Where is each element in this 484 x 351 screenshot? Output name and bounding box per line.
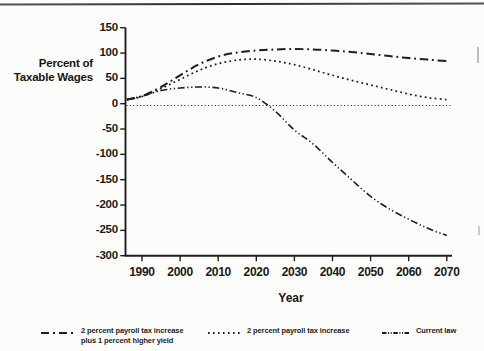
- y-axis-title-line1: Percent of: [8, 57, 93, 71]
- y-tick-label: -150: [62, 173, 118, 185]
- legend-label: Current law: [416, 326, 456, 336]
- dashdot-line-icon: [40, 328, 75, 338]
- scanned-chart-page: Percent of Taxable Wages 150100500-50-10…: [0, 0, 484, 351]
- x-tick-label: 2070: [429, 265, 465, 279]
- y-tick-label: -200: [62, 198, 118, 210]
- x-axis-title: Year: [262, 291, 320, 305]
- y-tick-label: -300: [62, 249, 118, 261]
- x-tick-label: 2040: [315, 265, 351, 279]
- x-tick-label: 2010: [200, 265, 236, 279]
- x-tick-label: 2030: [276, 265, 312, 279]
- series-line-1: [127, 59, 447, 100]
- legend-item-tax-increase-plus-yield: 2 percent payroll tax increase plus 1 pe…: [40, 326, 183, 345]
- x-tick-label: 2060: [391, 265, 427, 279]
- y-tick-label: -250: [62, 223, 118, 235]
- x-tick-label: 2050: [353, 265, 389, 279]
- legend-item-tax-increase: 2 percent payroll tax increase: [207, 326, 349, 338]
- legend-label: 2 percent payroll tax increase: [247, 326, 349, 336]
- y-tick-label: 150: [62, 21, 118, 33]
- y-tick-label: -100: [62, 147, 118, 159]
- dashdotdot-line-icon: [381, 328, 410, 338]
- y-tick-label: 100: [62, 46, 118, 58]
- series-line-0: [127, 49, 447, 100]
- y-tick-label: 50: [62, 71, 118, 83]
- x-tick-label: 2020: [238, 265, 274, 279]
- legend-label: 2 percent payroll tax increase: [81, 326, 183, 336]
- y-tick-label: -50: [62, 122, 118, 134]
- dotted-line-icon: [207, 328, 241, 338]
- x-tick-label: 2000: [162, 265, 198, 279]
- y-tick-label: 0: [62, 97, 118, 109]
- legend-item-current-law: Current law: [381, 326, 456, 338]
- x-tick-label: 1990: [124, 265, 160, 279]
- legend-label: plus 1 percent higher yield: [81, 336, 183, 346]
- series-line-2: [127, 87, 447, 235]
